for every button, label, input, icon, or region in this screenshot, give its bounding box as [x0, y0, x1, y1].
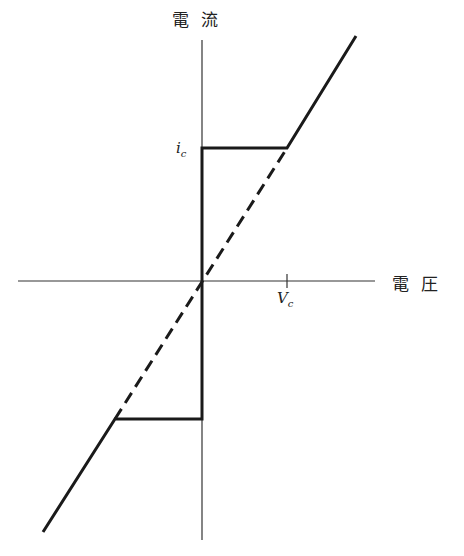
- x-axis-label: 電圧: [392, 270, 450, 295]
- voltage-mark-label: Vc: [277, 289, 293, 309]
- voltage-symbol: V: [277, 289, 288, 307]
- current-mark-label: ic: [176, 139, 186, 159]
- current-subscript: c: [181, 148, 187, 159]
- voltage-subscript: c: [288, 298, 294, 309]
- y-axis-label: 電流: [172, 6, 230, 31]
- iv-diagram: 電流 電圧 ic Vc: [0, 0, 464, 556]
